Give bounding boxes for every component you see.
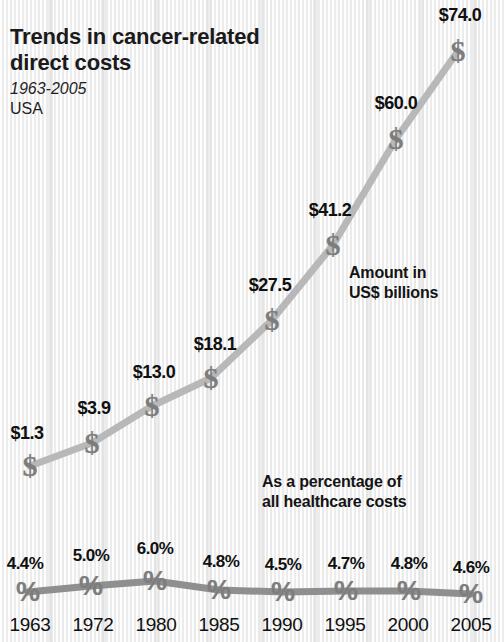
chart-canvas: Trends in cancer-related direct costs 19… [0, 0, 504, 642]
annotation-percent-line1: As a percentage of [262, 472, 407, 492]
percent-value-label: 4.7% [328, 554, 364, 574]
cost-value-label: $27.5 [249, 275, 292, 296]
x-axis-label-2000: 2000 [387, 614, 428, 636]
annotation-amount-line2: US$ billions [349, 283, 438, 303]
annotation-amount-line1: Amount in [349, 263, 438, 283]
x-axis-label-1972: 1972 [72, 614, 113, 636]
annotation-amount: Amount in US$ billions [349, 263, 438, 303]
x-axis-label-1985: 1985 [198, 614, 239, 636]
percent-value-label: 4.8% [391, 554, 427, 574]
x-axis-label-2005: 2005 [450, 614, 491, 636]
cost-value-label: $74.0 [439, 5, 482, 26]
cost-value-label: $3.9 [77, 398, 110, 419]
percent-value-label: 5.0% [73, 546, 109, 566]
percent-value-label: 4.6% [453, 558, 489, 578]
percent-value-label: 4.5% [265, 555, 301, 575]
percent-value-label: 4.4% [7, 554, 43, 574]
annotation-percent: As a percentage of all healthcare costs [262, 472, 407, 512]
cost-value-label: $13.0 [133, 362, 176, 383]
cost-value-label: $41.2 [309, 200, 352, 221]
cost-value-label: $18.1 [194, 334, 237, 355]
percent-value-label: 6.0% [137, 539, 173, 559]
cost-value-label: $60.0 [375, 93, 418, 114]
percent-value-label: 4.8% [203, 552, 239, 572]
annotation-percent-line2: all healthcare costs [262, 492, 407, 512]
x-axis-label-1995: 1995 [324, 614, 365, 636]
percent-series-line [28, 581, 471, 594]
x-axis-label-1990: 1990 [261, 614, 302, 636]
cost-value-label: $1.3 [10, 423, 43, 444]
x-axis-label-1980: 1980 [135, 614, 176, 636]
x-axis-label-1963: 1963 [9, 614, 50, 636]
